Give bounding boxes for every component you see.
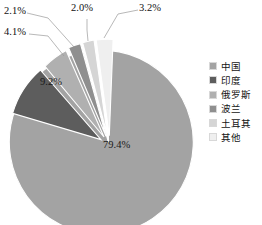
legend-swatch-icon <box>209 76 217 84</box>
slice-value-russia: 4.1% <box>4 26 26 37</box>
pie-chart: 9.2% 79.4% 2.1% 2.0% 3.2% 4.1% 中国 印度 俄罗斯… <box>0 0 262 225</box>
legend-item-label: 印度 <box>221 75 241 86</box>
legend-swatch-icon <box>209 105 217 113</box>
leader-line-turkey <box>87 19 88 41</box>
slice-value-china: 79.4% <box>103 139 130 150</box>
legend-item-russia[interactable]: 俄罗斯 <box>209 89 262 101</box>
legend-item-india[interactable]: 印度 <box>209 74 262 86</box>
pie-slices <box>9 39 193 225</box>
legend-swatch-icon <box>209 62 217 70</box>
legend-item-label: 中国 <box>221 61 241 72</box>
legend-swatch-icon <box>209 119 217 127</box>
legend-item-other[interactable]: 其他 <box>209 131 262 143</box>
legend-item-china[interactable]: 中国 <box>209 60 262 72</box>
legend-item-label: 波兰 <box>221 103 241 114</box>
legend-swatch-icon <box>209 133 217 141</box>
slice-value-turkey: 2.0% <box>71 2 93 13</box>
slice-value-other: 3.2% <box>139 2 161 13</box>
legend-item-turkey[interactable]: 土耳其 <box>209 117 262 129</box>
leader-line-poland <box>27 13 74 47</box>
legend-item-poland[interactable]: 波兰 <box>209 103 262 115</box>
callout-leader-lines <box>27 10 138 56</box>
legend-item-label: 俄罗斯 <box>221 89 251 100</box>
leader-line-russia <box>29 34 64 56</box>
legend-item-label: 土耳其 <box>221 118 251 129</box>
chart-legend: 中国 印度 俄罗斯 波兰 土耳其 其他 <box>209 60 262 143</box>
slice-value-poland: 2.1% <box>4 5 26 16</box>
legend-swatch-icon <box>209 91 217 99</box>
leader-line-other <box>104 10 138 38</box>
slice-value-india: 9.2% <box>40 76 62 87</box>
legend-item-label: 其他 <box>221 132 241 143</box>
